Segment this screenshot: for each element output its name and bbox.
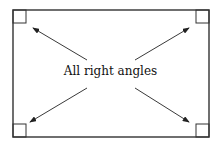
corner-marker-bottom-left (13, 124, 26, 137)
arrow-bottom-left (30, 88, 87, 122)
corner-marker-top-left (13, 10, 26, 23)
arrow-top-right (135, 28, 189, 60)
arrow-bottom-right (135, 88, 189, 122)
center-label: All right angles (0, 64, 221, 78)
corner-marker-top-right (196, 10, 209, 23)
arrow-top-left (33, 28, 87, 60)
corner-marker-bottom-right (196, 124, 209, 137)
